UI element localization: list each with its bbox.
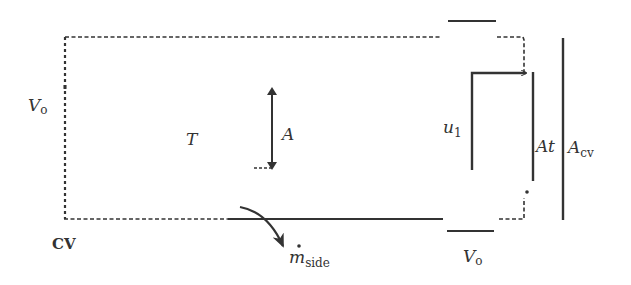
label-temperature: T (186, 129, 199, 149)
cv-top-right-dash (497, 37, 524, 72)
label-volume-bottom: Vo (463, 246, 483, 268)
label-throat-area: At (534, 136, 555, 156)
control-volume-diagram: Vo CV T A u1 At Acv Vo mside (0, 0, 631, 285)
cv-bottom-right-dash (499, 198, 524, 219)
label-cv: CV (52, 235, 76, 253)
label-area: A (280, 124, 294, 144)
cv-marker-dot (525, 190, 529, 194)
cv-left-mark (64, 85, 67, 89)
label-volume-left: Vo (28, 95, 48, 117)
label-cv-area: Acv (566, 137, 594, 160)
label-side-mass-flow: mside (289, 247, 330, 270)
side-outflow-arrow (240, 207, 283, 246)
label-jet-velocity: u1 (443, 117, 462, 140)
jet-path (472, 73, 526, 170)
